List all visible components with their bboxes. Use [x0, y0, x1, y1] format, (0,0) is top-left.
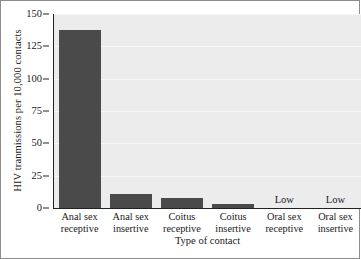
- x-tick-label-line: Oral sex: [259, 211, 310, 223]
- bar-value-annotation: Low: [259, 194, 310, 205]
- x-tick-label-line: Oral sex: [310, 211, 361, 223]
- y-tick-label: 75: [32, 106, 43, 116]
- x-tick-label: Anal sexinsertive: [105, 211, 156, 234]
- x-tick-label-line: Anal sex: [54, 211, 105, 223]
- y-tick-mark: [43, 46, 49, 47]
- y-tick-mark: [43, 111, 49, 112]
- y-tick-label: 125: [26, 41, 42, 51]
- x-tick-label-line: insertive: [105, 223, 156, 235]
- bar: [59, 30, 101, 208]
- x-tick-label-line: receptive: [54, 223, 105, 235]
- bar-value-annotation: Low: [310, 194, 361, 205]
- bar: [161, 198, 203, 208]
- bar-series: LowLow: [54, 14, 361, 208]
- bar-slot: [105, 14, 156, 208]
- y-tick-mark: [43, 78, 49, 79]
- y-tick-label: 25: [32, 171, 43, 181]
- bar-slot: Low: [310, 14, 361, 208]
- y-axis-tick-labels: 0255075100125150: [1, 1, 53, 259]
- x-tick-label: Anal sexreceptive: [54, 211, 105, 234]
- x-tick-label-line: receptive: [259, 223, 310, 235]
- x-tick-label-line: Anal sex: [105, 211, 156, 223]
- y-tick-mark: [43, 208, 49, 209]
- plot-area: LowLow: [54, 14, 361, 208]
- x-tick-label-line: insertive: [208, 223, 259, 235]
- y-tick-mark: [43, 14, 49, 15]
- y-tick-label: 100: [26, 74, 42, 84]
- x-tick-label-line: receptive: [156, 223, 207, 235]
- bar: [110, 194, 152, 208]
- x-axis-line: [53, 208, 361, 209]
- y-tick-label: 0: [37, 203, 42, 213]
- y-tick-mark: [43, 175, 49, 176]
- y-tick-label: 150: [26, 9, 42, 19]
- x-tick-label-line: Coitus: [208, 211, 259, 223]
- bar-slot: [156, 14, 207, 208]
- bar-slot: [208, 14, 259, 208]
- x-tick-label: Coitusreceptive: [156, 211, 207, 234]
- bar: [212, 204, 254, 208]
- x-tick-label: Oral sexinsertive: [310, 211, 361, 234]
- x-tick-label: Coitusinsertive: [208, 211, 259, 234]
- x-axis-title: Type of contact: [54, 235, 361, 246]
- bar-slot: [54, 14, 105, 208]
- bar-slot: Low: [259, 14, 310, 208]
- x-tick-label: Oral sexreceptive: [259, 211, 310, 234]
- x-tick-label-line: Coitus: [156, 211, 207, 223]
- x-tick-label-line: insertive: [310, 223, 361, 235]
- y-tick-label: 50: [32, 138, 43, 148]
- y-tick-mark: [43, 143, 49, 144]
- x-axis-tick-labels: Anal sexreceptiveAnal sexinsertiveCoitus…: [54, 211, 361, 234]
